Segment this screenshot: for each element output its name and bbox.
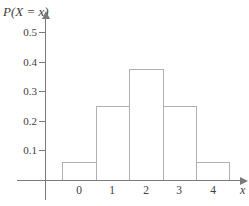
y-tick-label-0.1: 0.1 [10, 144, 37, 156]
bar-x1 [96, 106, 130, 181]
x-axis-label: x [240, 184, 245, 197]
bar-x2 [129, 69, 164, 181]
x-tick-label-4: 4 [202, 184, 224, 197]
x-tick-label-0: 0 [68, 184, 90, 197]
y-tick-label-0.5: 0.5 [10, 26, 37, 38]
bar-x3 [163, 106, 197, 181]
x-axis-line [17, 180, 242, 181]
y-tick-label-0.2: 0.2 [10, 115, 37, 127]
y-axis-arrow-icon [42, 11, 50, 19]
y-tick-label-0.3: 0.3 [10, 85, 37, 97]
probability-histogram-figure: P(X = x) 0.10.20.30.40.501234 x [0, 0, 249, 206]
x-tick-label-1: 1 [101, 184, 123, 197]
y-axis-line [45, 18, 46, 200]
x-tick-label-3: 3 [168, 184, 190, 197]
plot-area: 0.10.20.30.40.501234 [0, 0, 249, 206]
x-tick-label-2: 2 [135, 184, 157, 197]
bar-x0 [62, 162, 97, 181]
y-tick-label-0.4: 0.4 [10, 56, 37, 68]
bar-x4 [196, 162, 230, 181]
